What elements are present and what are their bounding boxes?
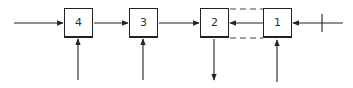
- block-4-label: 4: [75, 16, 82, 29]
- block-diagram: 4 3 2 1: [0, 0, 353, 88]
- block-2: 2: [200, 8, 229, 38]
- diagram-canvas: [0, 0, 353, 88]
- block-3: 3: [129, 8, 158, 38]
- block-2-label: 2: [211, 16, 218, 29]
- block-1: 1: [263, 8, 292, 38]
- block-1-label: 1: [274, 16, 281, 29]
- block-4: 4: [64, 8, 93, 38]
- block-3-label: 3: [140, 16, 147, 29]
